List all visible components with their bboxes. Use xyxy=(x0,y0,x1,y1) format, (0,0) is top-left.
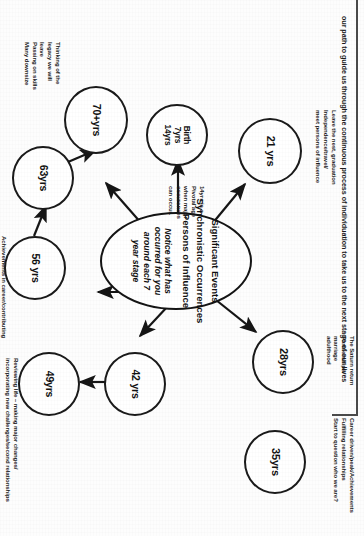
node-42yrs-label: 42 yrs xyxy=(129,369,140,398)
node-21yrs: 21 yrs xyxy=(238,118,302,184)
node-35yrs: 35yrs xyxy=(244,430,306,494)
node-35yrs-label: 35yrs xyxy=(269,448,281,476)
node-birth-label: Birth 7yrs 14yrs xyxy=(163,125,190,146)
node-28yrs-label: 28yrs xyxy=(277,348,289,376)
node-birth: Birth 7yrs 14yrs xyxy=(146,104,208,166)
node-49yrs-label: 49yrs xyxy=(43,371,54,397)
node-70plus-yrs: 70+yrs xyxy=(64,86,128,154)
node-49yrs: 49yrs xyxy=(18,352,80,416)
hub-line-significant-events: Significant Events xyxy=(207,219,221,302)
node-56yrs-label: 56 yrs xyxy=(29,253,40,282)
diagram-canvas: our path to guide us through the continu… xyxy=(0,0,364,536)
node-21yrs-label: 21 yrs xyxy=(264,136,276,167)
node-63yrs: 63yrs xyxy=(12,146,74,210)
node-42yrs: 42 yrs xyxy=(104,352,166,416)
note-70plus: Thinking of the legacy we will leave Pas… xyxy=(23,42,62,104)
note-35yrs: Career driven/peak/Achievements Fulfilli… xyxy=(333,418,356,534)
note-birth: 14yrs is a Pivotal age when major occure… xyxy=(167,186,206,246)
header-text: our path to guide us through the continu… xyxy=(340,16,349,382)
node-63yrs-label: 63yrs xyxy=(37,165,48,191)
node-70plus-label: 70+yrs xyxy=(90,104,101,136)
note-21yrs: Leave the nest, graduation Independence/… xyxy=(315,110,338,220)
rotated-diagram-wrapper: our path to guide us through the continu… xyxy=(0,0,364,536)
node-28yrs: 28yrs xyxy=(252,330,314,394)
node-56yrs: 56 yrs xyxy=(4,236,66,300)
note-56yrs-visible: Achievements in career/contributing to l… xyxy=(0,236,8,362)
note-49yrs: Reviewing life – making major changes/ i… xyxy=(4,358,20,536)
